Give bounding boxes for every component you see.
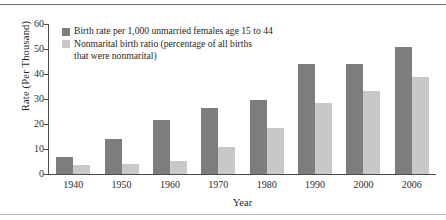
y-tick-label: 20 xyxy=(34,119,44,129)
legend-swatch-icon-series-1 xyxy=(62,40,70,48)
legend-label-series-1-line-2: that were nonmarital) xyxy=(74,50,273,63)
bottom-divider-rule xyxy=(0,214,446,215)
bar-group xyxy=(291,24,339,174)
x-tick-label: 1990 xyxy=(291,179,339,190)
y-tick-mark xyxy=(44,49,48,50)
y-tick-mark xyxy=(44,174,48,175)
x-tick-label: 1950 xyxy=(97,179,145,190)
legend-item-birth-rate: Birth rate per 1,000 unmarried females a… xyxy=(62,25,273,38)
bar-series-0 xyxy=(105,139,122,174)
bar-series-1 xyxy=(218,147,235,174)
y-tick-mark xyxy=(44,149,48,150)
bar-series-1 xyxy=(267,128,284,174)
bar-series-1 xyxy=(122,164,139,174)
y-tick-label: 60 xyxy=(34,19,44,29)
bar-series-0 xyxy=(298,64,315,174)
y-tick-mark xyxy=(44,74,48,75)
x-axis-title: Year xyxy=(49,197,436,209)
bar-series-1 xyxy=(412,77,429,174)
x-tick-label: 1960 xyxy=(146,179,194,190)
y-tick-label: 10 xyxy=(34,144,44,154)
x-axis-line xyxy=(48,174,436,175)
legend-swatch-icon-series-0 xyxy=(62,28,70,36)
y-tick-mark xyxy=(44,99,48,100)
bar-series-0 xyxy=(153,120,170,174)
y-tick-mark xyxy=(44,24,48,25)
bar-group xyxy=(339,24,387,174)
y-tick-label: 30 xyxy=(34,94,44,104)
top-divider-rule xyxy=(0,4,446,5)
bar-series-1 xyxy=(363,91,380,174)
bar-series-0 xyxy=(395,47,412,174)
bar-series-1 xyxy=(73,165,90,175)
x-tick-label: 1940 xyxy=(49,179,97,190)
chart-figure: Rate (Per Thousand) 0102030405060 194019… xyxy=(0,0,446,220)
bar-series-0 xyxy=(346,64,363,175)
legend-item-nonmarital-ratio: Nonmarital birth ratio (percentage of al… xyxy=(62,38,273,51)
y-tick-mark xyxy=(44,124,48,125)
x-tick-label: 2006 xyxy=(388,179,436,190)
bar-series-0 xyxy=(201,108,218,174)
bar-series-0 xyxy=(250,100,267,174)
bar-group xyxy=(388,24,436,174)
bar-series-0 xyxy=(56,157,73,175)
legend-label-series-0: Birth rate per 1,000 unmarried females a… xyxy=(74,25,273,38)
x-tick-label: 1970 xyxy=(194,179,242,190)
chart-legend: Birth rate per 1,000 unmarried females a… xyxy=(62,25,273,63)
legend-label-series-1-line-1: Nonmarital birth ratio (percentage of al… xyxy=(74,38,252,51)
x-tick-label: 1980 xyxy=(243,179,291,190)
bar-series-1 xyxy=(170,161,187,174)
y-axis-tick-labels: 0102030405060 xyxy=(22,24,44,174)
x-axis-tick-labels: 19401950196019701980199020002006 xyxy=(49,179,436,190)
x-tick-label: 2000 xyxy=(339,179,387,190)
y-tick-label: 50 xyxy=(34,44,44,54)
y-tick-label: 40 xyxy=(34,69,44,79)
bar-series-1 xyxy=(315,103,332,174)
